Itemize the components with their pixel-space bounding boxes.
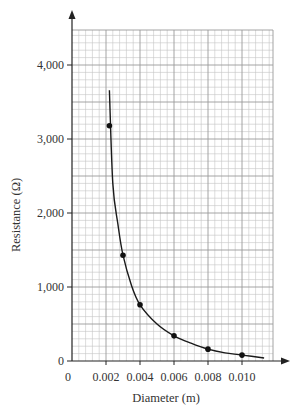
y-tick-label: 2,000 (37, 206, 64, 220)
x-ticks: 00.0020.0040.0060.0080.010 (65, 361, 256, 384)
data-point (239, 352, 245, 358)
x-tick-label: 0.010 (229, 370, 256, 384)
y-axis-title: Resistance (Ω) (9, 178, 23, 252)
data-point (171, 333, 177, 339)
x-tick-label: 0.004 (127, 370, 154, 384)
x-axis-arrow-icon (281, 358, 290, 365)
grid-minor (72, 30, 273, 361)
axes (69, 10, 291, 365)
y-tick-label: 4,000 (37, 58, 64, 72)
x-axis-title: Diameter (m) (132, 391, 200, 405)
x-tick-label: 0.002 (93, 370, 120, 384)
data-point (205, 346, 211, 352)
data-point (137, 302, 143, 308)
data-point (107, 123, 113, 129)
x-tick-label: 0 (65, 370, 71, 384)
x-tick-label: 0.006 (161, 370, 188, 384)
y-tick-label: 1,000 (37, 280, 64, 294)
resistance-vs-diameter-chart: 00.0020.0040.0060.0080.010 01,0002,0003,… (0, 0, 298, 415)
y-ticks: 01,0002,0003,0004,000 (37, 58, 72, 368)
data-points (107, 123, 245, 358)
data-point (120, 252, 126, 258)
y-tick-label: 0 (58, 354, 64, 368)
y-axis-arrow-icon (69, 10, 76, 19)
x-tick-label: 0.008 (195, 370, 222, 384)
y-tick-label: 3,000 (37, 132, 64, 146)
best-fit-curve (109, 90, 264, 358)
